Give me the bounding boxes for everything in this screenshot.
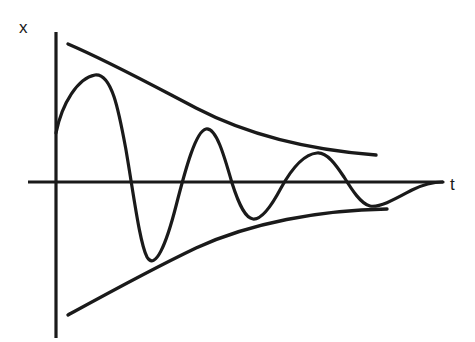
lower-envelope-curve bbox=[68, 209, 387, 315]
t-axis-label: t bbox=[450, 176, 455, 193]
plot-canvas bbox=[0, 0, 475, 342]
x-axis-label: x bbox=[19, 19, 28, 36]
damped-oscillation-curve bbox=[56, 75, 443, 261]
damped-oscillation-figure: x t bbox=[0, 0, 475, 342]
